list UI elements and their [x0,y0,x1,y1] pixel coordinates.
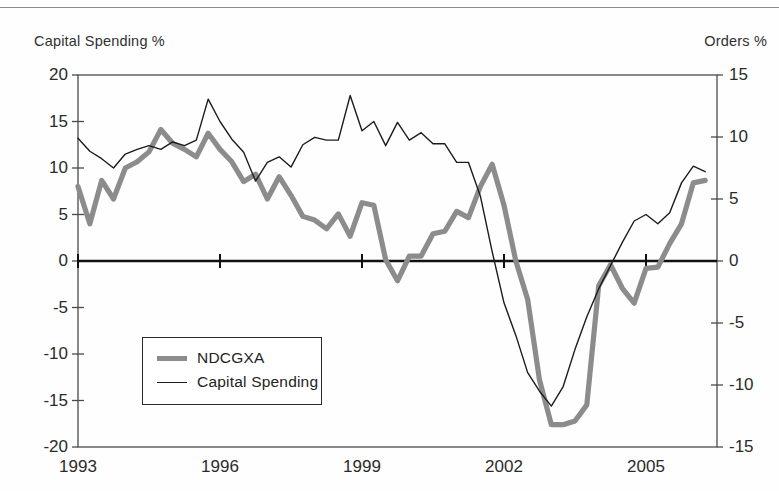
left-tick-label-0: 20 [8,66,68,83]
right-tick-label-2: 5 [729,190,779,207]
legend-label-capital-spending: Capital Spending [197,373,318,391]
right-tick-label-1: 10 [729,128,779,145]
x-tick-label-3: 2002 [464,458,544,475]
legend-label-ndcgxa: NDCGXA [197,349,265,367]
left-tick-label-4: 0 [8,252,68,269]
left-tick-label-6: -10 [8,345,68,362]
left-tick-label-1: 15 [8,113,68,130]
chart-canvas [0,0,779,491]
legend-item-capital-spending: Capital Spending [157,373,318,391]
right-tick-label-4: -5 [729,314,779,331]
left-tick-label-2: 10 [8,159,68,176]
x-tick-label-1: 1996 [180,458,260,475]
left-tick-label-8: -20 [8,438,68,455]
legend-item-ndcgxa: NDCGXA [157,349,265,367]
x-tick-label-2: 1999 [322,458,402,475]
left-tick-label-3: 5 [8,206,68,223]
right-tick-label-6: -15 [729,438,779,455]
x-tick-label-4: 2005 [606,458,686,475]
x-tick-label-0: 1993 [38,458,118,475]
chart-page: Capital Spending % Orders % 20151050-5-1… [0,0,779,491]
left-tick-label-5: -5 [8,299,68,316]
zero-line [78,254,717,268]
left-tick-label-7: -15 [8,392,68,409]
legend-swatch-thin-line-icon [157,382,187,383]
legend: NDCGXA Capital Spending [142,337,322,405]
right-tick-label-3: 0 [729,252,779,269]
right-tick-label-5: -10 [729,376,779,393]
right-tick-label-0: 15 [729,66,779,83]
legend-swatch-thick-line-icon [157,356,187,361]
